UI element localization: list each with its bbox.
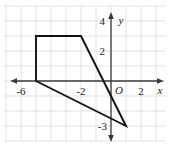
x-tick-label-pos2: 2 bbox=[138, 85, 144, 97]
origin-label: O bbox=[115, 84, 123, 96]
figure-background bbox=[0, 0, 170, 147]
y-tick-label-neg3: -3 bbox=[98, 120, 108, 132]
y-tick-label-2: 2 bbox=[100, 45, 106, 57]
plot-canvas: -6 -2 2 4 2 -3 O x y bbox=[0, 0, 170, 147]
x-tick-label-neg2: -2 bbox=[76, 85, 85, 97]
y-axis-label: y bbox=[118, 14, 124, 26]
x-axis-label: x bbox=[157, 84, 163, 96]
x-tick-label-neg6: -6 bbox=[16, 85, 26, 97]
y-tick-label-4: 4 bbox=[100, 15, 106, 27]
coordinate-plane-figure: -6 -2 2 4 2 -3 O x y bbox=[0, 0, 170, 147]
